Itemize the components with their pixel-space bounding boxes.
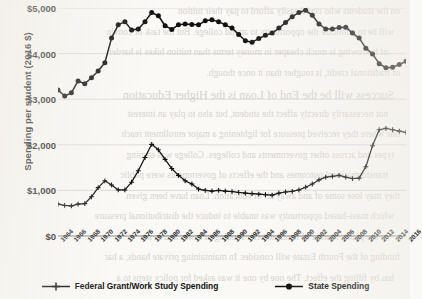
- data-point: [129, 27, 134, 32]
- data-point: [163, 23, 168, 28]
- data-point: [390, 127, 395, 132]
- y-axis-tick-label: $2,000: [4, 139, 56, 150]
- data-point: [136, 26, 141, 31]
- data-point: [209, 17, 214, 22]
- plot-area: [58, 8, 406, 236]
- data-point: [263, 192, 268, 197]
- data-point: [250, 40, 255, 45]
- data-point: [189, 22, 194, 27]
- data-point: [343, 175, 348, 180]
- chart-canvas: [58, 8, 406, 238]
- data-point: [323, 26, 328, 31]
- data-point: [297, 188, 302, 193]
- legend-item-state[interactable]: State Spending: [274, 281, 369, 292]
- data-point: [256, 36, 261, 41]
- legend-marker-plus-icon: [41, 281, 71, 292]
- data-point: [156, 13, 161, 18]
- data-point: [169, 27, 174, 32]
- series-line: [58, 10, 406, 96]
- data-point: [62, 94, 67, 99]
- data-point: [62, 203, 67, 208]
- data-point: [397, 129, 402, 134]
- data-point: [350, 176, 355, 181]
- x-axis-tick-labels: 1964196619681970197219741976197819801982…: [58, 238, 406, 272]
- data-point: [357, 36, 362, 41]
- data-point: [216, 19, 221, 24]
- y-axis-tick-labels: $0$1,000$2,000$3,000$4,000$5,000: [0, 0, 56, 299]
- legend-item-federal[interactable]: Federal Grant/Work Study Spending: [41, 281, 219, 292]
- legend-label-federal: Federal Grant/Work Study Spending: [75, 281, 219, 291]
- data-point: [256, 192, 261, 197]
- data-point: [223, 189, 228, 194]
- data-point: [276, 26, 281, 31]
- data-point: [290, 189, 295, 194]
- data-point: [397, 62, 402, 67]
- data-point: [176, 22, 181, 27]
- y-axis-tick-label: $5,000: [4, 3, 56, 14]
- y-axis-tick-label: $0: [4, 231, 56, 242]
- data-point: [216, 188, 221, 193]
- data-point: [377, 61, 382, 66]
- data-point: [223, 22, 228, 27]
- data-point: [236, 32, 241, 37]
- legend-marker-circle-icon: [274, 281, 304, 292]
- y-axis-tick-label: $1,000: [4, 185, 56, 196]
- data-point: [310, 13, 315, 18]
- data-point: [377, 127, 382, 132]
- data-point: [109, 36, 114, 41]
- data-point: [270, 193, 275, 198]
- data-point: [76, 78, 81, 83]
- legend-label-state: State Spending: [308, 281, 369, 291]
- data-point: [102, 60, 107, 65]
- data-point: [390, 65, 395, 70]
- data-point: [243, 38, 248, 43]
- data-point: [210, 189, 215, 194]
- data-point: [276, 191, 281, 196]
- data-point: [343, 25, 348, 30]
- data-point: [149, 10, 154, 15]
- data-point: [337, 25, 342, 30]
- data-point: [76, 202, 81, 207]
- data-point: [143, 155, 148, 160]
- data-point: [69, 204, 74, 209]
- data-point: [196, 22, 201, 27]
- data-point: [330, 26, 335, 31]
- data-point: [243, 191, 248, 196]
- data-point: [183, 21, 188, 26]
- data-point: [263, 33, 268, 38]
- data-point: [230, 189, 235, 194]
- data-point: [250, 191, 255, 196]
- data-point: [363, 46, 368, 51]
- data-point: [143, 19, 148, 24]
- data-point: [296, 10, 301, 15]
- data-point: [303, 185, 308, 190]
- data-point: [270, 31, 275, 36]
- data-point: [116, 22, 121, 27]
- data-point: [384, 126, 389, 131]
- data-point: [323, 175, 328, 180]
- data-point: [383, 65, 388, 70]
- data-point: [203, 188, 208, 193]
- chart-legend: Federal Grant/Work Study Spending State …: [0, 276, 410, 296]
- data-point: [203, 18, 208, 23]
- data-point: [236, 190, 241, 195]
- data-point: [122, 19, 127, 24]
- series-line: [58, 128, 406, 206]
- data-point: [58, 202, 60, 207]
- data-point: [330, 174, 335, 179]
- data-point: [283, 20, 288, 25]
- data-point: [350, 31, 355, 36]
- data-point: [89, 75, 94, 80]
- data-point: [317, 21, 322, 26]
- data-point: [370, 52, 375, 57]
- data-point: [230, 26, 235, 31]
- series-federal: [58, 126, 406, 208]
- data-point: [404, 130, 406, 135]
- data-point: [303, 8, 308, 13]
- data-point: [69, 90, 74, 95]
- data-point: [82, 81, 87, 86]
- data-point: [290, 14, 295, 19]
- x-axis-tick-label: 2016: [407, 228, 422, 243]
- data-point: [96, 68, 101, 73]
